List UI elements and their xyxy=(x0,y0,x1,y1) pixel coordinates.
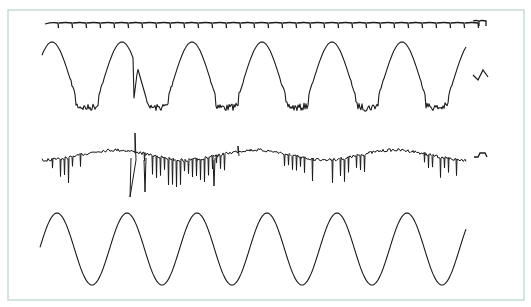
waveform-figure xyxy=(0,0,531,307)
figure-frame xyxy=(8,10,524,300)
